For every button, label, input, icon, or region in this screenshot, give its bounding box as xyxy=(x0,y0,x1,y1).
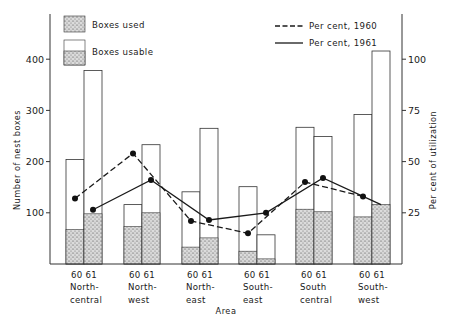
data-point-1961 xyxy=(206,217,212,223)
left-axis: 100200300400 Number of nest boxes xyxy=(12,14,50,264)
y-tick-label: 400 xyxy=(26,54,44,65)
used-bar xyxy=(200,238,218,264)
bar-group xyxy=(66,51,390,264)
y-tick-label: 100 xyxy=(26,207,44,218)
legend-item-percent-1961: Per cent, 1961 xyxy=(275,38,377,48)
data-point-1961 xyxy=(90,207,96,213)
category-label: South- xyxy=(243,282,273,292)
legend-label-boxes-used: Boxes used xyxy=(92,20,145,30)
category-label: South- xyxy=(358,282,388,292)
data-point-1961 xyxy=(148,177,154,183)
y2-tick-label: 25 xyxy=(408,207,420,218)
data-point-1960 xyxy=(130,150,136,156)
y-tick-label: 300 xyxy=(26,105,44,116)
percent-lines xyxy=(72,150,381,236)
nest-box-utilization-chart: Boxes used Boxes usable Per cent, 1960 P… xyxy=(0,0,452,325)
legend-label-percent-1960: Per cent, 1960 xyxy=(309,21,377,31)
data-point-1961 xyxy=(263,210,269,216)
used-bar xyxy=(354,217,372,264)
category-group xyxy=(182,128,218,264)
year-labels: 60 61 xyxy=(244,270,270,280)
legend-item-boxes-used: Boxes used xyxy=(64,16,145,32)
category-label: North- xyxy=(70,282,99,292)
category-label: central xyxy=(70,295,102,305)
y-tick-label: 200 xyxy=(26,156,44,167)
legend-label-percent-1961: Per cent, 1961 xyxy=(309,38,377,48)
used-bar xyxy=(182,247,200,264)
legend-label-boxes-usable: Boxes usable xyxy=(92,47,153,57)
data-point-1960 xyxy=(302,179,308,185)
year-labels: 60 61 xyxy=(359,270,385,280)
used-bar xyxy=(66,230,84,264)
x-axis-title: Area xyxy=(216,306,237,316)
year-labels: 60 61 xyxy=(301,270,327,280)
stippled-swatch-icon xyxy=(64,51,85,65)
category-label: west xyxy=(358,295,380,305)
category-group xyxy=(296,127,332,264)
legend-item-boxes-usable: Boxes usable xyxy=(64,40,153,65)
data-point-1960 xyxy=(360,193,366,199)
data-point-1961 xyxy=(320,175,326,181)
used-bar xyxy=(239,251,257,264)
category-group xyxy=(124,145,160,264)
legend-item-percent-1960: Per cent, 1960 xyxy=(275,21,377,31)
category-group xyxy=(354,51,390,264)
category-label: North- xyxy=(186,282,215,292)
y2-tick-label: 100 xyxy=(408,54,426,65)
left-axis-title: Number of nest boxes xyxy=(12,110,22,210)
category-group xyxy=(66,70,102,264)
year-labels: 60 61 xyxy=(187,270,213,280)
legend: Boxes used Boxes usable Per cent, 1960 P… xyxy=(64,16,377,65)
y2-tick-label: 75 xyxy=(408,105,420,116)
category-labels: 60 61North-central60 61North-west60 61No… xyxy=(70,270,388,305)
used-bar xyxy=(84,214,102,264)
data-point-1960 xyxy=(72,195,78,201)
category-label: central xyxy=(300,295,332,305)
y2-tick-label: 50 xyxy=(408,156,420,167)
right-axis: 255075100 Per cent of utilization xyxy=(402,14,438,264)
data-point-1960 xyxy=(188,218,194,224)
category-label: South xyxy=(300,282,326,292)
used-bar xyxy=(296,209,314,264)
used-bar xyxy=(124,227,142,264)
category-label: east xyxy=(243,295,263,305)
used-bar xyxy=(372,205,390,264)
right-axis-title: Per cent of utilization xyxy=(428,111,438,209)
year-labels: 60 61 xyxy=(129,270,155,280)
data-point-1960 xyxy=(245,230,251,236)
used-bar xyxy=(257,259,275,264)
category-label: west xyxy=(128,295,150,305)
year-labels: 60 61 xyxy=(71,270,97,280)
category-group xyxy=(239,187,275,264)
used-bar xyxy=(314,212,332,264)
category-label: east xyxy=(186,295,206,305)
used-bar xyxy=(142,213,160,264)
stippled-swatch-icon xyxy=(64,16,85,32)
category-label: North- xyxy=(128,282,157,292)
